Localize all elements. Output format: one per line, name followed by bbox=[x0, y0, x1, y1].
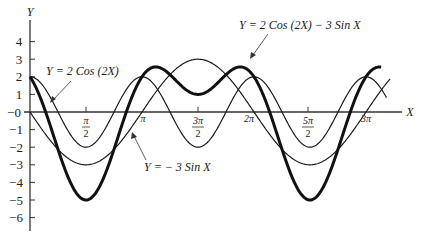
y-label-m3: −3 bbox=[9, 157, 23, 172]
y-label-m6: −6 bbox=[9, 210, 23, 225]
x-label-pi: π bbox=[140, 113, 146, 124]
y-label-3: 3 bbox=[16, 52, 23, 67]
x-label-5pi2-num: 5π bbox=[303, 115, 314, 126]
x-label-3pi2-num: 3π bbox=[192, 115, 204, 126]
annotation-sum-pointer bbox=[253, 34, 268, 55]
arrowhead-icon bbox=[250, 52, 256, 59]
y-label-m2: −2 bbox=[9, 140, 23, 155]
x-axis-title: X bbox=[405, 105, 414, 119]
x-label-pi2-num: π bbox=[83, 115, 89, 126]
x-label-3pi2-den: 2 bbox=[196, 128, 201, 139]
y-label-m5: −5 bbox=[9, 193, 23, 208]
y-label-0: −0 bbox=[7, 105, 21, 120]
y-axis-title: Y bbox=[27, 5, 35, 19]
x-label-5pi2-den: 2 bbox=[306, 128, 311, 139]
annotation-cos: Y = 2 Cos (2X) bbox=[46, 64, 119, 78]
chart-figure: 4 3 2 1 −0 −1 −2 −3 −4 −5 −6 Y X π 2 π 3… bbox=[0, 0, 424, 241]
y-label-m1: −1 bbox=[9, 122, 23, 137]
x-ticks bbox=[86, 107, 308, 112]
y-label-4: 4 bbox=[16, 34, 23, 49]
arrowhead-icon bbox=[131, 132, 137, 139]
annotation-sum: Y = 2 Cos (2X) − 3 Sin X bbox=[239, 18, 361, 32]
y-tick-labels: 4 3 2 1 −0 −1 −2 −3 −4 −5 −6 bbox=[7, 34, 23, 225]
x-label-pi2-den: 2 bbox=[84, 128, 89, 139]
x-label-2pi: 2π bbox=[244, 113, 255, 124]
y-ticks bbox=[30, 42, 35, 218]
y-label-2: 2 bbox=[16, 69, 23, 84]
y-label-1: 1 bbox=[16, 87, 23, 102]
annotation-sin-pointer bbox=[134, 136, 146, 160]
plot-area: 4 3 2 1 −0 −1 −2 −3 −4 −5 −6 Y X π 2 π 3… bbox=[0, 0, 424, 241]
x-label-3pi: 3π bbox=[360, 113, 372, 124]
y-label-m4: −4 bbox=[9, 175, 23, 190]
annotation-sin: Y = − 3 Sin X bbox=[144, 160, 211, 174]
annotation-cos-pointer bbox=[53, 81, 71, 100]
